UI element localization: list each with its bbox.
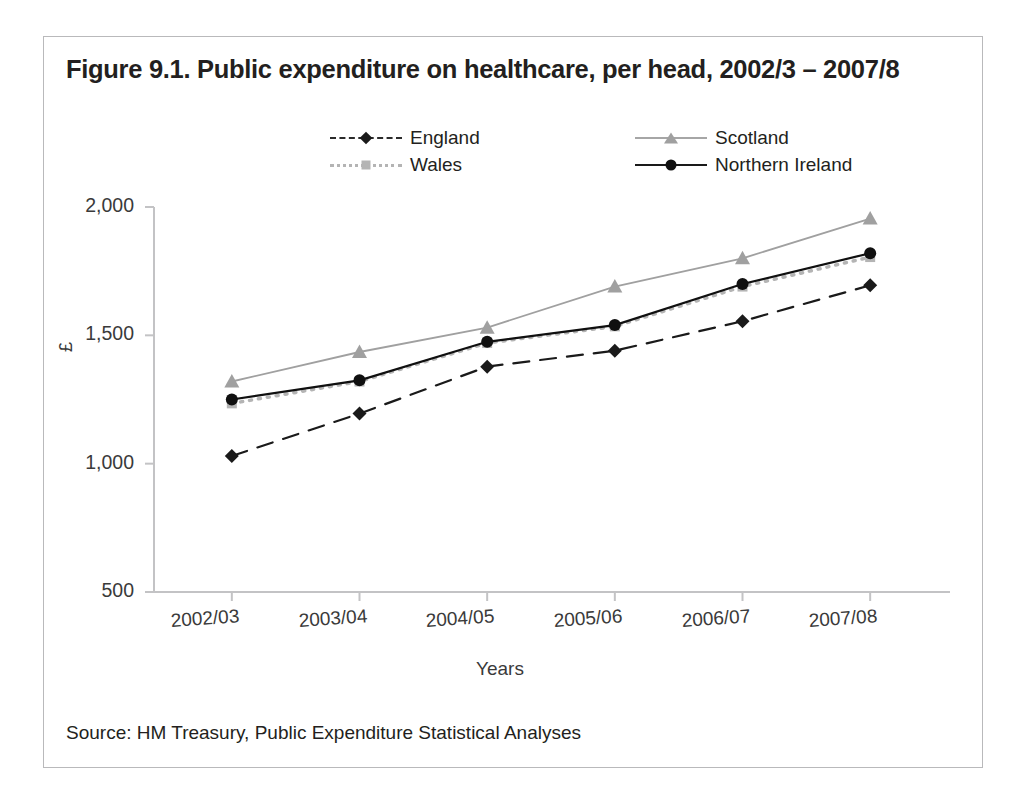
legend-label-scotland: Scotland (715, 127, 789, 149)
chart-legend: England Wales Scotland Northern Ireland (330, 126, 890, 178)
legend-swatch-england (330, 129, 402, 147)
x-axis-title: Years (476, 658, 524, 680)
triangle-marker-icon (664, 133, 678, 144)
legend-item-england[interactable]: England (330, 126, 480, 150)
y-axis-tick-label: 500 (54, 579, 134, 602)
square-marker-icon (362, 161, 371, 170)
x-axis-tick-label: 2006/07 (681, 605, 751, 632)
y-axis-tick-label: 1,500 (54, 322, 134, 345)
page-title: Figure 9.1. Public expenditure on health… (66, 55, 966, 84)
legend-swatch-wales (330, 156, 402, 174)
legend-item-northern-ireland[interactable]: Northern Ireland (635, 153, 852, 177)
legend-label-wales: Wales (410, 154, 462, 176)
legend-item-wales[interactable]: Wales (330, 153, 462, 177)
source-note: Source: HM Treasury, Public Expenditure … (66, 722, 581, 744)
legend-item-scotland[interactable]: Scotland (635, 126, 789, 150)
circle-marker-icon (666, 160, 677, 171)
figure-page: Figure 9.1. Public expenditure on health… (0, 0, 1016, 810)
legend-label-northern-ireland: Northern Ireland (715, 154, 852, 176)
legend-label-england: England (410, 127, 480, 149)
legend-swatch-northern-ireland (635, 156, 707, 174)
x-axis-tick-label: 2003/04 (298, 605, 368, 632)
y-axis-tick-label: 1,000 (54, 451, 134, 474)
diamond-marker-icon (360, 132, 373, 145)
y-axis-tick-label: 2,000 (54, 194, 134, 217)
legend-swatch-scotland (635, 129, 707, 147)
